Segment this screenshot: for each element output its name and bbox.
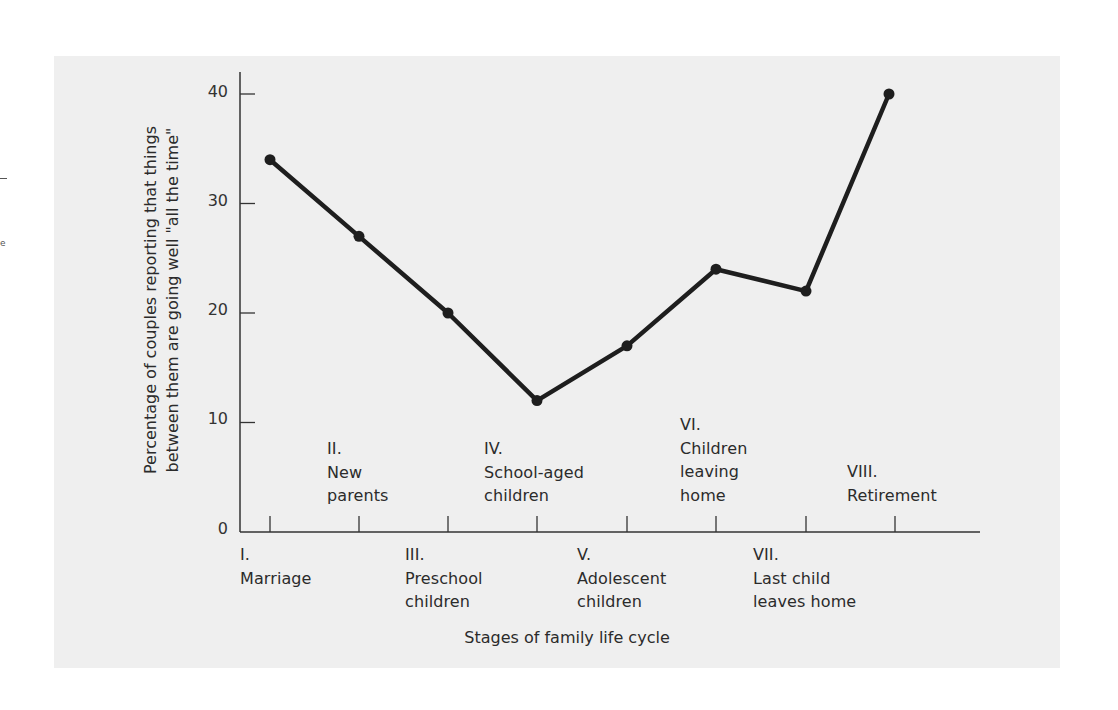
stage-label-6: VI. Children leaving home bbox=[680, 413, 747, 507]
stage-name: Marriage bbox=[240, 567, 312, 591]
stage-name: School-aged bbox=[484, 461, 584, 485]
data-point-marker bbox=[884, 89, 895, 100]
y-tick-label-10: 10 bbox=[198, 409, 228, 428]
data-point-marker bbox=[801, 286, 812, 297]
stage-name: Adolescent bbox=[577, 567, 666, 591]
data-point-marker bbox=[622, 340, 633, 351]
y-tick-label-20: 20 bbox=[198, 300, 228, 319]
stage-number: II. bbox=[327, 437, 388, 461]
stage-label-8: VIII. Retirement bbox=[847, 460, 937, 507]
stage-label-7: VII. Last child leaves home bbox=[753, 543, 856, 614]
stage-name: children bbox=[577, 590, 666, 614]
y-axis-title-line-2: between them are going well "all the tim… bbox=[162, 126, 184, 474]
stage-name: children bbox=[484, 484, 584, 508]
y-tick-label-30: 30 bbox=[198, 191, 228, 210]
stage-number: VI. bbox=[680, 413, 747, 437]
y-tick-label-0: 0 bbox=[198, 519, 228, 538]
data-point-marker bbox=[265, 154, 276, 165]
stage-label-4: IV. School-aged children bbox=[484, 437, 584, 508]
stage-name: Retirement bbox=[847, 484, 937, 508]
data-series bbox=[265, 89, 895, 407]
data-line bbox=[270, 94, 889, 401]
stage-label-1: I. Marriage bbox=[240, 543, 312, 590]
y-tick-label-40: 40 bbox=[198, 82, 228, 101]
stage-name: Last child bbox=[753, 567, 856, 591]
stage-number: III. bbox=[405, 543, 483, 567]
stage-number: I. bbox=[240, 543, 312, 567]
y-axis-title-line-1: Percentage of couples reporting that thi… bbox=[140, 126, 162, 474]
stage-name: leaving bbox=[680, 460, 747, 484]
stage-number: V. bbox=[577, 543, 666, 567]
stage-number: IV. bbox=[484, 437, 584, 461]
data-point-marker bbox=[443, 308, 454, 319]
stage-name: home bbox=[680, 484, 747, 508]
stage-label-2: II. New parents bbox=[327, 437, 388, 508]
data-point-marker bbox=[711, 264, 722, 275]
stage-name: children bbox=[405, 590, 483, 614]
stage-name: New bbox=[327, 461, 388, 485]
stage-name: parents bbox=[327, 484, 388, 508]
stage-name: Preschool bbox=[405, 567, 483, 591]
y-axis-title: Percentage of couples reporting that thi… bbox=[140, 126, 184, 474]
stage-label-5: V. Adolescent children bbox=[577, 543, 666, 614]
stage-name: leaves home bbox=[753, 590, 856, 614]
stage-label-3: III. Preschool children bbox=[405, 543, 483, 614]
stage-number: VII. bbox=[753, 543, 856, 567]
data-point-marker bbox=[532, 395, 543, 406]
x-axis-title: Stages of family life cycle bbox=[372, 628, 762, 647]
data-point-marker bbox=[354, 231, 365, 242]
stage-name: Children bbox=[680, 437, 747, 461]
stage-number: VIII. bbox=[847, 460, 937, 484]
